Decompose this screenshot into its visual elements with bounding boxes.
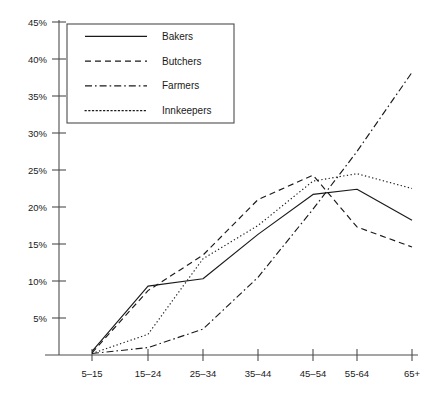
legend-label-bakers: Bakers: [162, 31, 193, 42]
x-tick-label: 35–44: [245, 368, 271, 379]
x-tick-label: 65+: [404, 368, 421, 379]
series-line-butchers: [92, 175, 412, 353]
x-tick-label: 45–54: [300, 368, 326, 379]
y-tick-label: 25%: [28, 165, 48, 176]
x-tick-label: 5–15: [81, 368, 102, 379]
series-line-bakers: [92, 189, 412, 351]
y-tick-label: 45%: [28, 17, 48, 28]
legend-label-innkeepers: Innkeepers: [162, 105, 211, 116]
y-tick-label: 10%: [28, 276, 48, 287]
y-axis-ticks: 5%10%15%20%25%30%35%40%45%: [28, 17, 66, 324]
x-tick-label: 15–24: [135, 368, 161, 379]
chart-canvas: 5%10%15%20%25%30%35%40%45% 5–1515–2425–3…: [0, 0, 422, 393]
y-tick-label: 5%: [33, 313, 47, 324]
legend-label-farmers: Farmers: [162, 80, 199, 91]
y-tick-label: 20%: [28, 202, 48, 213]
x-tick-label: 25–34: [190, 368, 216, 379]
y-axis-group: 5%10%15%20%25%30%35%40%45%: [28, 17, 66, 356]
x-axis-group: 5–1515–2425–3435–4445–5455-6465+: [45, 349, 421, 379]
line-chart: 5%10%15%20%25%30%35%40%45% 5–1515–2425–3…: [0, 0, 422, 393]
y-tick-label: 15%: [28, 239, 48, 250]
legend-label-butchers: Butchers: [162, 56, 201, 67]
x-tick-label: 55-64: [345, 368, 369, 379]
series-line-innkeepers: [92, 174, 412, 354]
x-axis-ticks: 5–1515–2425–3435–4445–5455-6465+: [81, 349, 420, 379]
y-tick-label: 30%: [28, 128, 48, 139]
y-tick-label: 40%: [28, 54, 48, 65]
chart-legend: BakersButchersFarmersInnkeepers: [67, 24, 234, 123]
y-tick-label: 35%: [28, 91, 48, 102]
